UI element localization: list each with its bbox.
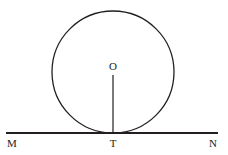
label-line-end-m: M [7, 138, 17, 149]
geometry-figure: O T M N [0, 0, 228, 155]
label-centre-o: O [109, 61, 117, 72]
label-tangent-point-t: T [110, 138, 117, 149]
geometry-canvas [0, 0, 228, 155]
label-line-end-n: N [209, 138, 217, 149]
